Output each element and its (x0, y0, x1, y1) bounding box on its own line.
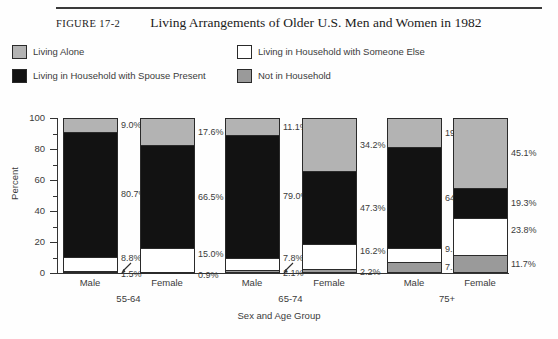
bar-segment-75+-Female-1[interactable] (453, 188, 508, 218)
bar-value-label-55-64-Female-2: 15.0% (198, 249, 224, 259)
bar-55-64-Male[interactable]: 9.0%80.7%8.8%1.5% (63, 118, 118, 273)
header-rule (56, 7, 542, 9)
figure-caption: FIGURE 17-2 Living Arrangements of Older… (56, 13, 546, 33)
bar-segment-55-64-Male-0[interactable] (63, 118, 118, 132)
bar-value-label-65-74-Female-1: 47.3% (360, 203, 386, 213)
chart-plot-area: Percent 020406080100 9.0%80.7%8.8%1.5%17… (0, 100, 558, 339)
bar-75+-Female[interactable]: 45.1%19.3%23.8%11.7% (453, 118, 508, 273)
bar-segment-65-74-Female-2[interactable] (302, 244, 357, 269)
bar-segment-55-64-Male-3[interactable] (63, 271, 118, 273)
x-category-label-0: Male (55, 277, 125, 288)
y-tick-0 (50, 273, 58, 274)
bar-segment-75+-Female-3[interactable] (453, 255, 508, 273)
bar-segment-65-74-Male-3[interactable] (225, 270, 280, 273)
bar-segment-65-74-Female-3[interactable] (302, 269, 357, 272)
legend-label-someone-else: Living in Household with Someone Else (258, 45, 425, 59)
y-tick-label-0: 0 (15, 268, 45, 277)
y-tick-label-20: 20 (15, 237, 45, 246)
x-category-label-2: Male (217, 277, 287, 288)
bar-segment-75+-Female-0[interactable] (453, 118, 508, 188)
y-tick-minor-30 (53, 227, 58, 228)
bar-value-label-75+-Female-3: 11.7% (511, 259, 536, 269)
bar-65-74-Male[interactable]: 11.1%79.0%7.8%2.1% (225, 118, 280, 273)
figure-title: Living Arrangements of Older U.S. Men an… (150, 15, 481, 30)
bar-value-label-55-64-Male-0: 9.0% (121, 120, 142, 130)
bar-segment-65-74-Male-1[interactable] (225, 135, 280, 257)
bar-segment-75+-Male-2[interactable] (387, 248, 442, 262)
figure-number: FIGURE 17-2 (56, 18, 120, 29)
bar-segment-55-64-Female-2[interactable] (140, 248, 195, 271)
bar-segment-65-74-Male-2[interactable] (225, 258, 280, 270)
y-tick-minor-50 (53, 196, 58, 197)
bar-65-74-Female[interactable]: 34.2%47.3%16.2%2.2% (302, 118, 357, 273)
x-category-label-3: Female (294, 277, 364, 288)
bar-75+-Male[interactable]: 19.0%64.8%9.1%7.1% (387, 118, 442, 273)
y-tick-20 (50, 242, 58, 243)
legend-label-spouse-present: Living in Household with Spouse Present (33, 69, 206, 83)
bar-segment-65-74-Female-1[interactable] (302, 171, 357, 244)
bar-segment-75+-Male-3[interactable] (387, 262, 442, 273)
x-category-label-5: Female (445, 277, 515, 288)
y-tick-minor-70 (53, 165, 58, 166)
x-group-label-75+: 75+ (407, 293, 487, 304)
bar-segment-55-64-Male-2[interactable] (63, 257, 118, 271)
chart-legend: Living Alone Living in Household with Sp… (12, 44, 546, 90)
legend-label-not-in-household: Not in Household (258, 69, 331, 83)
bar-segment-75+-Female-2[interactable] (453, 218, 508, 255)
x-category-label-1: Female (132, 277, 202, 288)
bar-value-label-65-74-Female-0: 34.2% (360, 140, 386, 150)
bar-value-label-75+-Female-1: 19.3% (511, 198, 537, 208)
y-tick-60 (50, 180, 58, 181)
bar-segment-75+-Male-0[interactable] (387, 118, 442, 147)
y-tick-80 (50, 149, 58, 150)
y-tick-label-80: 80 (15, 144, 45, 153)
x-group-label-55-64: 55-64 (89, 293, 169, 304)
bar-value-label-65-74-Female-2: 16.2% (360, 246, 386, 256)
bar-segment-65-74-Male-0[interactable] (225, 118, 280, 135)
bar-segment-55-64-Female-1[interactable] (140, 145, 195, 248)
legend-swatch-not-in-household (237, 69, 252, 83)
legend-swatch-someone-else (237, 45, 252, 59)
x-group-label-65-74: 65-74 (251, 293, 331, 304)
y-tick-label-40: 40 (15, 206, 45, 215)
bar-segment-55-64-Male-1[interactable] (63, 132, 118, 257)
legend-swatch-spouse-present (12, 69, 27, 83)
bar-value-label-75+-Female-0: 45.1% (511, 148, 537, 158)
legend-swatch-living-alone (12, 45, 27, 59)
y-tick-100 (50, 118, 58, 119)
bar-segment-75+-Male-1[interactable] (387, 147, 442, 247)
bar-value-label-55-64-Female-1: 66.5% (198, 192, 224, 202)
bar-segment-55-64-Female-0[interactable] (140, 118, 195, 145)
bar-segment-65-74-Female-0[interactable] (302, 118, 357, 171)
bar-value-label-75+-Female-2: 23.8% (511, 225, 537, 235)
bar-55-64-Female[interactable]: 17.6%66.5%15.0%0.9% (140, 118, 195, 273)
bar-value-label-65-74-Female-3: 2.2% (360, 267, 381, 277)
x-category-label-4: Male (379, 277, 449, 288)
y-tick-minor-10 (53, 258, 58, 259)
y-tick-40 (50, 211, 58, 212)
bar-segment-55-64-Female-3[interactable] (140, 272, 195, 274)
bar-value-label-55-64-Female-0: 17.6% (198, 127, 224, 137)
x-axis-label: Sex and Age Group (0, 310, 558, 321)
y-tick-label-100: 100 (15, 113, 45, 122)
legend-label-living-alone: Living Alone (33, 45, 84, 59)
y-tick-label-60: 60 (15, 175, 45, 184)
y-tick-minor-90 (53, 134, 58, 135)
